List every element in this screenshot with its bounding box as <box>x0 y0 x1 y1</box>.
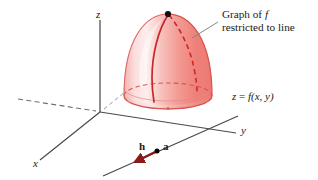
line-in-plane-group <box>103 116 238 176</box>
vector-a-label: a <box>163 140 169 152</box>
apex-point-dot <box>165 11 171 17</box>
math-figure-3d: Graph of f restricted to line z = f(x, y… <box>0 0 318 180</box>
paraboloid-surface <box>124 11 212 109</box>
surface-dome-body <box>124 14 212 105</box>
equation-equals: = <box>236 90 248 102</box>
y-axis <box>100 112 236 133</box>
figure-container: Graph of f restricted to line z = f(x, y… <box>0 0 318 180</box>
base-curve-foot-dot <box>167 107 169 109</box>
surface-equation-label: z = f(x, y) <box>231 90 274 103</box>
line-in-xy-plane <box>103 116 238 176</box>
point-a-dot <box>155 149 160 154</box>
callout-label-line2: restricted to line <box>222 21 295 33</box>
callout-label-line1: Graph of f <box>222 8 270 20</box>
z-axis-label: z <box>95 8 101 20</box>
vector-h-segment <box>135 152 155 162</box>
x-axis <box>40 112 100 160</box>
callout-line1-italic-f: f <box>265 8 270 20</box>
y-axis-negative-dashed <box>18 99 96 111</box>
vector-h-label: h <box>139 140 145 152</box>
x-axis-label: x <box>32 157 38 169</box>
callout-line1-prefix: Graph of <box>222 8 265 20</box>
equation-arguments: (x, y) <box>251 90 274 103</box>
y-axis-label: y <box>240 124 246 136</box>
